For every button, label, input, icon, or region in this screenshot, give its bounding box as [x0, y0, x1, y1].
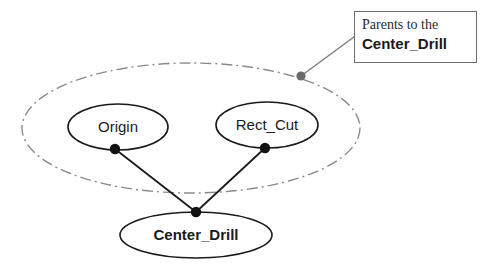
anchor-dot-rect-cut: [260, 143, 270, 153]
node-origin-label: Origin: [68, 118, 168, 135]
node-center-drill-label: Center_Drill: [120, 226, 272, 243]
anchor-dot-origin: [110, 144, 120, 154]
node-rect-cut-label: Rect_Cut: [216, 116, 318, 133]
diagram-canvas: Origin Rect_Cut Center_Drill Parents to …: [0, 0, 499, 274]
connector-rect-cut-to-center-drill: [196, 148, 265, 212]
callout-leader-dot: [296, 71, 305, 80]
callout-leader-line: [301, 31, 362, 76]
callout-line-1: Parents to the: [362, 16, 476, 34]
connector-origin-to-center-drill: [115, 149, 196, 212]
anchor-dot-center-drill: [191, 207, 201, 217]
callout-line-2: Center_Drill: [362, 34, 476, 54]
callout-box: Parents to the Center_Drill: [354, 11, 477, 63]
